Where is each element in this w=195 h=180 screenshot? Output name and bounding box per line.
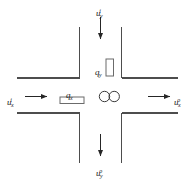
label-outflow-right-sup: o [177, 97, 180, 103]
label-block-qy-sub: y [99, 72, 102, 78]
intersection-flow-diagram: uyi uyo uxi uxo qy qx [0, 0, 195, 180]
label-inflow-left-sup: i [10, 97, 12, 103]
center-circle-right [109, 91, 119, 101]
label-block-qy: qy [95, 62, 102, 78]
center-circle-left [99, 91, 109, 101]
label-inflow-top-sup: i [99, 8, 101, 14]
label-inflow-left: uxi [7, 92, 12, 108]
label-outflow-right: uxo [174, 92, 180, 108]
label-block-qx-sub: x [70, 95, 73, 101]
block-qy-rect [106, 59, 114, 76]
label-inflow-top: uyi [96, 3, 101, 19]
label-block-qx: qx [66, 85, 73, 101]
diagram-canvas [0, 0, 195, 180]
label-outflow-bottom: uyo [96, 163, 102, 179]
label-outflow-bottom-sup: o [99, 168, 102, 174]
